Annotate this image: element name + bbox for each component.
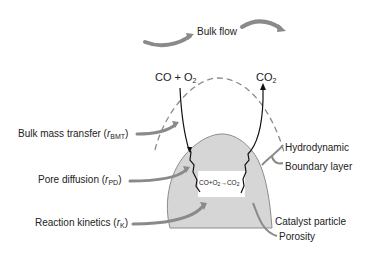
porosity-label: Porosity xyxy=(279,232,315,242)
bulk-flow-label: Bulk flow xyxy=(197,27,237,37)
reaction-kinetics-label: Reaction kinetics (rK) xyxy=(35,218,128,229)
product-label: CO2 xyxy=(256,72,276,84)
boundary-layer-label: Boundary layer xyxy=(285,162,352,172)
bulk-flow-arrow-right xyxy=(242,21,280,28)
bulk-mass-transfer-label: Bulk mass transfer (rBMT) xyxy=(18,129,128,140)
bulk-flow-arrow-left xyxy=(145,36,190,45)
boundary-layer-pointer xyxy=(272,155,283,163)
product-arrowhead xyxy=(260,83,266,90)
bmt-pointer-arrow xyxy=(137,125,175,134)
hydrodynamic-label: Hydrodynamic xyxy=(285,143,349,153)
catalyst-particle-label: Catalyst particle xyxy=(275,217,346,227)
pore-diffusion-label: Pore diffusion (rPD) xyxy=(38,175,122,186)
bulk-flow-arrowhead-right xyxy=(277,24,286,32)
reaction-equation: CO+O2→CO2 xyxy=(199,180,239,187)
reactant-label: CO + O2 xyxy=(155,72,197,84)
